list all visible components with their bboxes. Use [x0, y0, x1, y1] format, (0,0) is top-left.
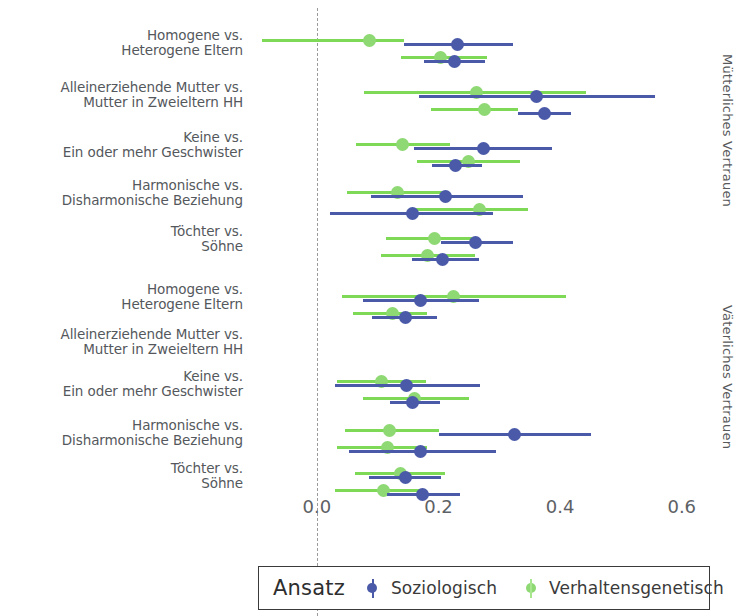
category-label: Homogene vs. Heterogene Eltern — [0, 282, 243, 312]
category-label: Harmonische vs. Disharmonische Beziehung — [0, 418, 243, 448]
category-label: Harmonische vs. Disharmonische Beziehung — [0, 178, 243, 208]
point-estimate — [406, 207, 419, 220]
point-estimate — [399, 471, 412, 484]
x-axis-tick: 0.2 — [424, 496, 453, 517]
point-estimate — [439, 190, 452, 203]
legend-swatch-verhaltensgenetisch — [521, 579, 540, 598]
point-estimate — [400, 379, 413, 392]
legend-label-verhaltensgenetisch: Verhaltensgenetisch — [549, 578, 724, 598]
category-label: Alleinerziehende Mutter vs. Mutter in Zw… — [0, 327, 243, 357]
point-estimate — [396, 138, 409, 151]
confidence-interval — [431, 108, 518, 111]
legend-item-verhaltensgenetisch[interactable]: Verhaltensgenetisch — [521, 578, 724, 598]
x-axis-tick: 0.6 — [667, 496, 696, 517]
point-estimate — [530, 90, 543, 103]
point-estimate — [451, 38, 464, 51]
point-estimate — [478, 103, 491, 116]
legend: Ansatz Soziologisch Verhaltensgenetisch — [258, 566, 710, 610]
confidence-interval — [412, 208, 528, 211]
point-estimate — [436, 253, 449, 266]
x-axis: 0.00.20.40.6 — [250, 496, 700, 522]
point-estimate — [538, 107, 551, 120]
point-estimate — [448, 55, 461, 68]
point-estimate — [508, 428, 521, 441]
point-estimate — [469, 236, 482, 249]
point-estimate — [414, 445, 427, 458]
point-estimate — [363, 34, 376, 47]
point-estimate — [414, 294, 427, 307]
point-estimate — [449, 159, 462, 172]
zero-reference-line — [317, 8, 318, 616]
category-label: Alleinerziehende Mutter vs. Mutter in Zw… — [0, 80, 243, 110]
category-label: Töchter vs. Söhne — [0, 461, 243, 491]
point-estimate — [399, 311, 412, 324]
x-axis-tick: 0.4 — [546, 496, 575, 517]
category-label: Töchter vs. Söhne — [0, 224, 243, 254]
point-estimate — [383, 424, 396, 437]
point-estimate — [406, 396, 419, 409]
point-estimate — [477, 142, 490, 155]
point-estimate — [428, 232, 441, 245]
facet-label-vaeterliches-vertrauen: Väterliches Vertrauen — [714, 262, 740, 492]
confidence-interval — [262, 39, 404, 42]
legend-item-soziologisch[interactable]: Soziologisch — [363, 578, 497, 598]
legend-title: Ansatz — [273, 576, 345, 600]
category-label: Keine vs. Ein oder mehr Geschwister — [0, 369, 243, 399]
legend-swatch-soziologisch — [363, 579, 382, 598]
legend-label-soziologisch: Soziologisch — [391, 578, 497, 598]
x-axis-tick: 0.0 — [303, 496, 332, 517]
forest-plot-figure: Homogene vs. Heterogene ElternAlleinerzi… — [0, 0, 742, 616]
facet-label-muetterliches-vertrauen: Mütterliches Vertrauen — [714, 8, 740, 254]
category-label: Homogene vs. Heterogene Eltern — [0, 28, 243, 58]
category-label: Keine vs. Ein oder mehr Geschwister — [0, 130, 243, 160]
plot-area — [250, 0, 700, 616]
